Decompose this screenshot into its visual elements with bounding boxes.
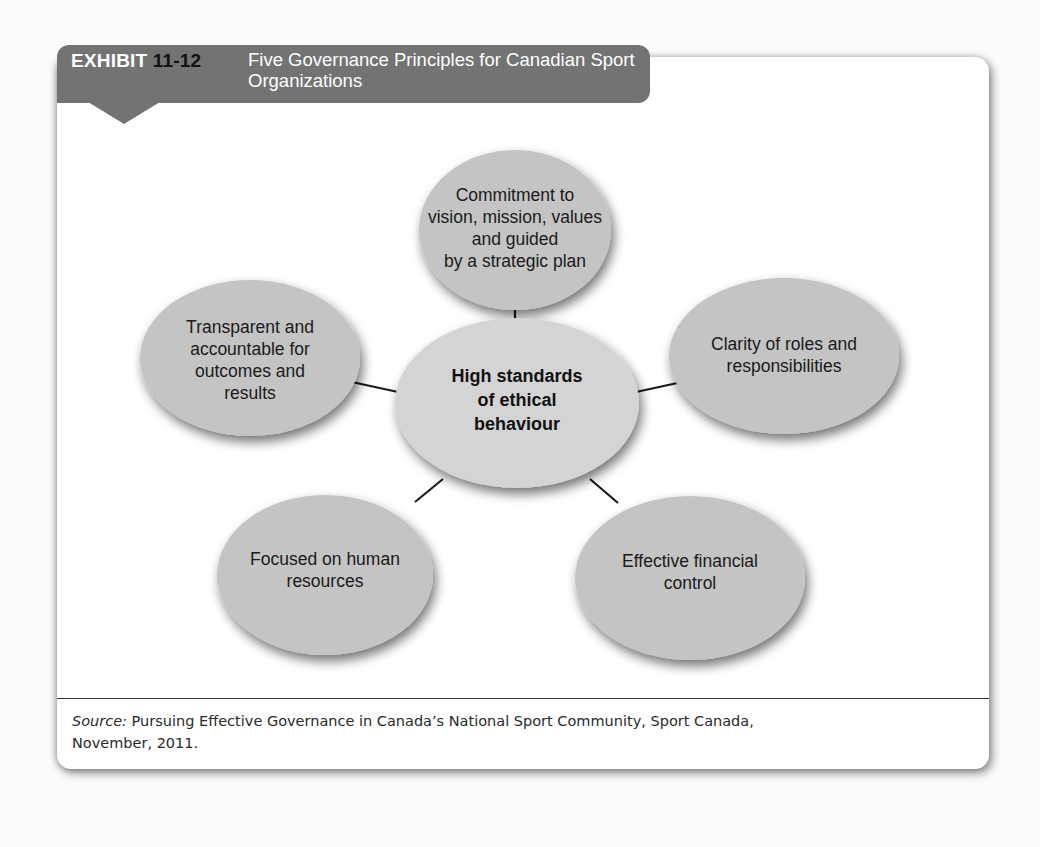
node-center-line: behaviour [451, 412, 582, 436]
exhibit-title: Five Governance Principles for Canadian … [248, 49, 638, 91]
node-top-line: vision, mission, values [428, 206, 602, 228]
node-left-line: results [186, 382, 314, 404]
node-bottom-right: Effective financial control [590, 532, 790, 612]
node-center: High standards of ethical behaviour [417, 345, 617, 455]
node-top: Commitment to vision, mission, values an… [415, 168, 615, 288]
node-top-line: Commitment to [428, 184, 602, 206]
node-right: Clarity of roles and responsibilities [684, 310, 884, 400]
connector-left [352, 382, 398, 392]
header-pointer-icon [88, 102, 160, 124]
node-bottom-right-line: control [622, 572, 758, 594]
exhibit-number: 11-12 [153, 50, 202, 71]
connector-bottom-left [415, 479, 443, 502]
node-center-line: of ethical [451, 388, 582, 412]
node-bottom-left-line: Focused on human [250, 548, 400, 570]
connector-bottom-right [590, 479, 618, 503]
exhibit-header: EXHIBIT 11-12 Five Governance Principles… [57, 45, 650, 103]
node-left: Transparent and accountable for outcomes… [150, 300, 350, 420]
node-right-line: Clarity of roles and [711, 333, 857, 355]
source-label: Source: [72, 713, 127, 729]
source-divider [57, 698, 989, 699]
node-left-line: outcomes and [186, 360, 314, 382]
exhibit-word: EXHIBIT [71, 50, 147, 71]
node-top-line: and guided [428, 228, 602, 250]
node-center-line: High standards [451, 364, 582, 388]
node-right-line: responsibilities [711, 355, 857, 377]
node-left-line: accountable for [186, 338, 314, 360]
node-bottom-right-line: Effective financial [622, 550, 758, 572]
node-bottom-left-line: resources [250, 570, 400, 592]
node-top-line: by a strategic plan [428, 250, 602, 272]
exhibit-label: EXHIBIT 11-12 [71, 50, 201, 72]
connector-right [636, 382, 682, 392]
node-left-line: Transparent and [186, 316, 314, 338]
source-note: Source: Pursuing Effective Governance in… [72, 710, 772, 754]
source-text-line2: November, 2011. [72, 732, 772, 754]
node-bottom-left: Focused on human resources [225, 530, 425, 610]
source-text: Pursuing Effective Governance in Canada’… [127, 713, 754, 729]
